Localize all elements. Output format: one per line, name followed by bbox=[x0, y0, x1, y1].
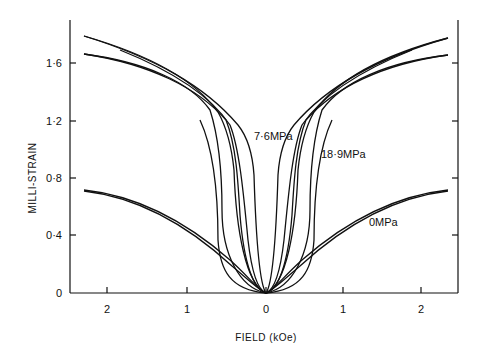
x-tick-labels: 2 1 0 1 2 bbox=[104, 303, 424, 315]
axes-frame bbox=[70, 20, 458, 293]
annotation-18-9mpa: 18·9MPa bbox=[321, 148, 367, 160]
y-tick-2: 0·8 bbox=[46, 172, 62, 184]
x-tick-2: 0 bbox=[263, 303, 269, 315]
curve-mid-a bbox=[120, 50, 412, 293]
curve-0mpa-b bbox=[84, 191, 448, 293]
y-tick-0: 0 bbox=[56, 287, 62, 299]
magnetostriction-chart: 0 0·4 0·8 1·2 1·6 2 1 0 1 2 FIELD (kOe) … bbox=[0, 0, 480, 358]
x-tick-1: 1 bbox=[184, 303, 190, 315]
annotation-7-6mpa: 7·6MPa bbox=[254, 130, 293, 142]
annotation-0mpa: 0MPa bbox=[369, 216, 399, 228]
x-tick-4: 2 bbox=[418, 303, 424, 315]
curves bbox=[84, 36, 448, 293]
curve-mid-b bbox=[200, 120, 332, 293]
curve-189mpa-outer bbox=[84, 54, 448, 293]
curve-189mpa-inner bbox=[84, 54, 448, 293]
annotations: 7·6MPa 18·9MPa 0MPa bbox=[254, 130, 399, 228]
y-tick-4: 1·6 bbox=[46, 57, 62, 69]
y-axis-label: MILLI-STRAIN bbox=[27, 142, 38, 213]
y-tick-labels: 0 0·4 0·8 1·2 1·6 bbox=[46, 57, 62, 299]
y-tick-1: 0·4 bbox=[46, 229, 62, 241]
x-tick-0: 2 bbox=[104, 303, 110, 315]
curve-76mpa-inner bbox=[84, 36, 448, 293]
x-tick-3: 1 bbox=[340, 303, 346, 315]
curve-76mpa-outer bbox=[84, 36, 448, 293]
y-tick-3: 1·2 bbox=[46, 115, 62, 127]
x-axis-label: FIELD (kOe) bbox=[235, 332, 297, 343]
